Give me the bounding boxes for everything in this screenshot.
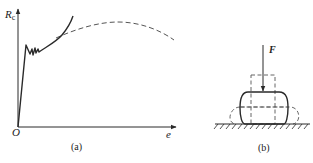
panel-a-stress-strain-chart: Rc O e (a) <box>4 8 176 153</box>
x-axis-label: e <box>166 128 171 140</box>
solid-curve <box>18 16 73 127</box>
panel-b-compression-specimen: F (b) <box>214 44 310 154</box>
dashed-curve <box>56 22 174 40</box>
panel-a-caption: (a) <box>71 141 82 153</box>
ground-hatching <box>214 124 308 129</box>
panel-b-caption: (b) <box>258 142 270 154</box>
origin-label: O <box>12 126 20 138</box>
y-axis-label: Rc <box>4 8 16 22</box>
force-label: F <box>268 44 276 55</box>
figure: Rc O e (a) F <box>0 0 313 163</box>
barrel-specimen-outline <box>240 92 288 124</box>
